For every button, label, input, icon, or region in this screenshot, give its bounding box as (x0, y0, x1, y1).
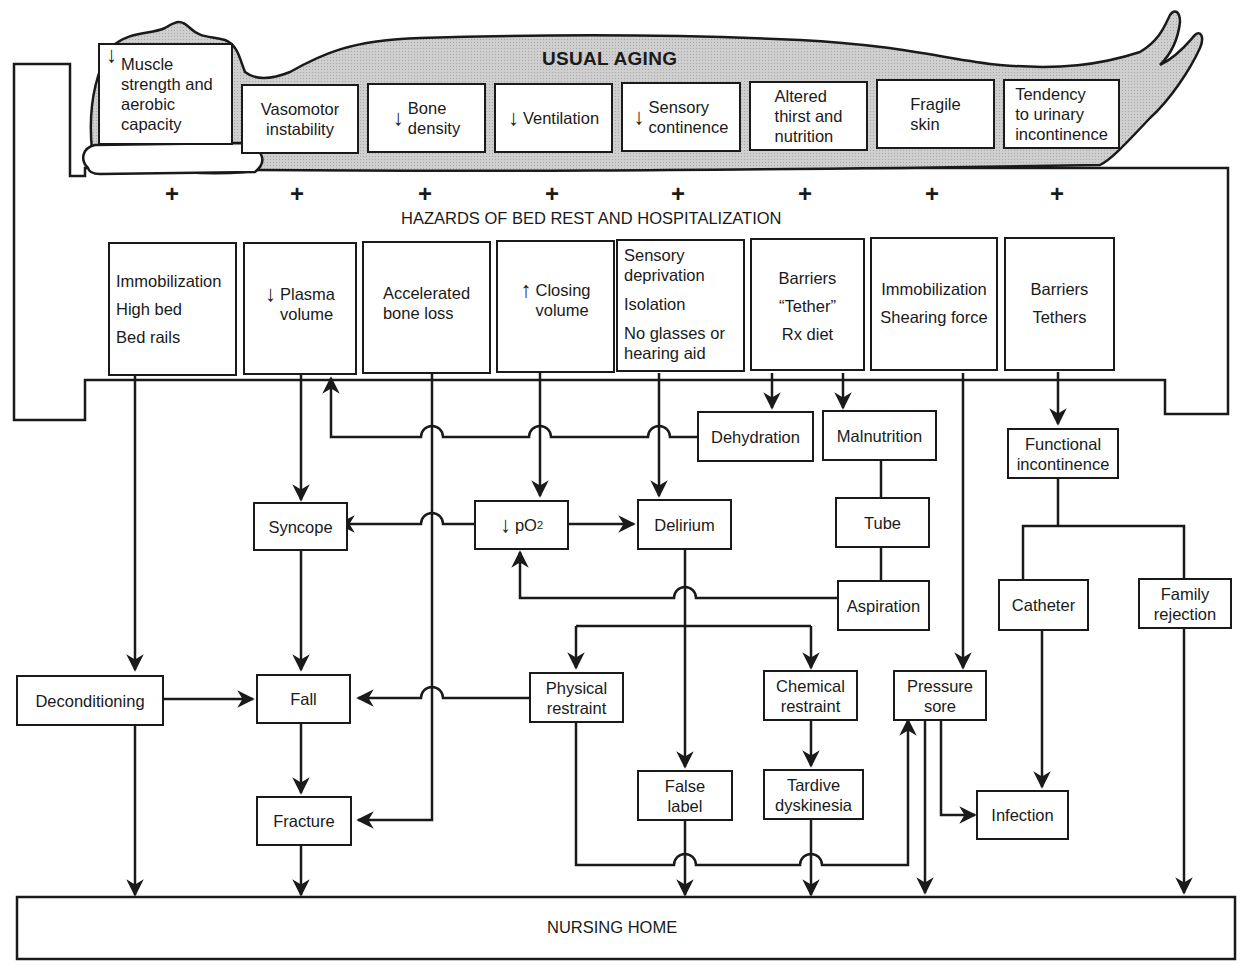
hazard-immobilization: ImmobilizationHigh bedBed rails (108, 242, 237, 376)
plus-sign: + (165, 180, 179, 208)
node-tube: Tube (835, 497, 930, 548)
pillow (83, 143, 262, 174)
aging-thirst-nutrition: Alteredthirst andnutrition (749, 81, 868, 151)
down-arrow-icon: ↓ (106, 45, 117, 65)
hazard-barriers-tethers: BarriersTethers (1004, 237, 1115, 371)
node-chemical-restraint: Chemicalrestraint (763, 670, 858, 721)
aging-ventilation: ↓ Ventilation (494, 83, 613, 153)
node-syncope: Syncope (253, 502, 348, 551)
node-pressure-sore: Pressuresore (893, 670, 987, 721)
node-functional-incontinence: Functionalincontinence (1007, 428, 1119, 479)
aging-bone-density: ↓ Bonedensity (367, 83, 486, 153)
hazard-bone-loss: Acceleratedbone loss (362, 241, 491, 374)
nursing-home-label: NURSING HOME (547, 918, 677, 937)
plus-sign: + (671, 180, 685, 208)
node-dehydration: Dehydration (697, 411, 814, 462)
node-low-po2: ↓ pO2 (474, 500, 569, 550)
hazard-plasma-volume: ↓ Plasmavolume (243, 242, 357, 375)
up-arrow-icon: ↑ (520, 280, 531, 300)
plus-sign: + (418, 180, 432, 208)
plus-sign: + (1050, 180, 1064, 208)
plus-sign: + (545, 180, 559, 208)
node-false-label: Falselabel (637, 770, 733, 821)
hazard-closing-volume: ↑ Closingvolume (496, 240, 615, 373)
node-family-rejection: Familyrejection (1138, 578, 1232, 629)
node-malnutrition: Malnutrition (822, 410, 937, 461)
plus-sign: + (925, 180, 939, 208)
node-delirium: Delirium (637, 499, 732, 550)
node-infection: Infection (976, 790, 1069, 840)
node-catheter: Catheter (998, 579, 1089, 631)
node-tardive-dyskinesia: Tardivedyskinesia (763, 769, 864, 820)
aging-sensory-continence: ↓ Sensorycontinence (621, 82, 741, 152)
aging-urinary: Tendencyto urinaryincontinence (1003, 79, 1120, 149)
hazard-shearing-force: ImmobilizationShearing force (870, 237, 998, 371)
hazards-title: HAZARDS OF BED REST AND HOSPITALIZATION (401, 209, 781, 228)
hazard-sensory-deprivation: SensorydeprivationIsolationNo glasses or… (616, 239, 745, 372)
plus-sign: + (798, 180, 812, 208)
down-arrow-icon: ↓ (393, 108, 404, 128)
down-arrow-icon: ↓ (500, 515, 511, 535)
node-deconditioning: Deconditioning (16, 675, 164, 726)
usual-aging-title: USUAL AGING (542, 48, 677, 70)
node-fracture: Fracture (256, 796, 352, 846)
node-fall: Fall (256, 674, 351, 724)
down-arrow-icon: ↓ (634, 107, 645, 127)
plus-sign: + (290, 180, 304, 208)
aging-vasomotor: Vasomotorinstability (241, 84, 359, 154)
aging-muscle-strength: ↓ Musclestrength andaerobiccapacity (98, 43, 233, 145)
node-physical-restraint: Physicalrestraint (529, 672, 624, 723)
down-arrow-icon: ↓ (265, 284, 276, 304)
hazard-barriers-tether: Barriers“Tether”Rx diet (750, 238, 865, 371)
node-aspiration: Aspiration (837, 580, 930, 631)
aging-fragile-skin: Fragileskin (876, 79, 995, 149)
down-arrow-icon: ↓ (508, 108, 519, 128)
